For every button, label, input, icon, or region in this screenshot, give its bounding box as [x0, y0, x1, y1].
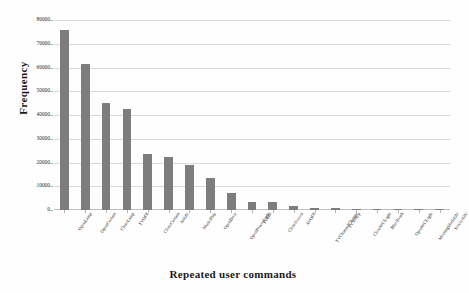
x-category-label: OpenLamp [78, 212, 94, 232]
y-tick-mark [50, 163, 53, 164]
y-tick-mark [50, 20, 53, 21]
y-tick-mark [50, 44, 53, 45]
bar [206, 178, 215, 210]
y-tick-mark [50, 139, 53, 140]
y-tick-label: 60000 [4, 65, 50, 70]
gridline [54, 20, 450, 21]
x-category-label: MusicPlay [203, 212, 218, 231]
y-tick-label: 30000 [4, 136, 50, 141]
y-tick-label: 70000 [4, 41, 50, 46]
y-axis-tick-labels: 0100002000030000400005000060000700008000… [0, 20, 50, 210]
y-tick-label: 50000 [4, 88, 50, 93]
bar [60, 30, 69, 211]
y-tick-label: 20000 [4, 160, 50, 165]
y-tick-mark [50, 91, 53, 92]
x-category-label: CloseLamp [120, 212, 136, 232]
x-category-label: BlueTooth [390, 212, 405, 230]
bar [102, 103, 111, 210]
bar [248, 202, 257, 210]
bar [123, 109, 132, 210]
y-tick-mark [50, 68, 53, 69]
x-category-label: AirOFF [305, 212, 317, 227]
y-tick-label: 80000 [4, 17, 50, 22]
x-category-label: OpenWCLight [415, 212, 434, 237]
gridline [54, 91, 450, 92]
x-axis-category-labels: OpenLampOpenCurtainCloseLampTVOFFCloseCu… [54, 212, 450, 268]
x-category-label: CloseCurtain [163, 212, 181, 234]
gridline [54, 163, 450, 164]
x-category-label: TVOFF [138, 212, 150, 227]
x-category-label: OpenCurtain [100, 212, 117, 234]
bar [227, 193, 236, 210]
y-tick-label: 0 [4, 207, 50, 212]
y-tick-mark [50, 115, 53, 116]
bar [143, 154, 152, 210]
gridline [54, 139, 450, 140]
bar [185, 165, 194, 210]
y-tick-label: 10000 [4, 183, 50, 188]
bar [164, 157, 173, 210]
gridline [54, 44, 450, 45]
bar [268, 202, 277, 210]
gridline [54, 186, 450, 187]
y-tick-mark [50, 186, 53, 187]
y-tick-mark [50, 210, 53, 211]
gridline [54, 68, 450, 69]
bar [81, 64, 90, 210]
x-category-label: OpenDoor [224, 212, 239, 231]
gridline [54, 115, 450, 116]
x-axis-title: Repeated user commands [0, 268, 466, 280]
plot-area [54, 20, 450, 210]
y-tick-label: 40000 [4, 112, 50, 117]
x-category-label: CloseScreen [288, 212, 305, 233]
x-category-label: TVVolUp [348, 212, 362, 229]
